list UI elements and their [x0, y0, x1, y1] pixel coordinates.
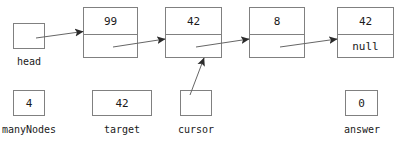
list-node-4-data-cell: 42	[338, 8, 393, 35]
list-node-4[interactable]: 42 null	[337, 7, 394, 58]
list-node-2-data-value: 42	[187, 16, 200, 27]
variable-label-target: target	[92, 125, 152, 135]
list-node-3-data-value: 8	[274, 16, 281, 27]
list-node-1-data-cell: 99	[84, 8, 137, 35]
variable-label-manynodes: manyNodes	[0, 125, 58, 135]
variable-box-manynodes[interactable]: 4	[13, 90, 45, 116]
variable-value-manynodes: 4	[26, 98, 33, 109]
list-node-1[interactable]: 99	[83, 7, 138, 58]
variable-box-cursor[interactable]	[180, 90, 212, 116]
variable-value-target: 42	[115, 98, 128, 109]
linked-list-diagram: 99 42 8 42 null head c	[0, 0, 411, 146]
list-node-1-link-cell	[84, 35, 137, 57]
variable-value-answer: 0	[358, 98, 365, 109]
variable-label-cursor: cursor	[167, 125, 225, 135]
list-node-1-data-value: 99	[104, 16, 117, 27]
variable-box-answer[interactable]: 0	[345, 90, 378, 116]
list-node-4-link-cell: null	[338, 35, 393, 57]
list-node-3-link-cell	[250, 35, 304, 57]
variable-label-head: head	[0, 57, 58, 67]
variable-box-target[interactable]: 42	[92, 90, 152, 116]
variable-label-answer: answer	[333, 125, 391, 135]
list-node-2[interactable]: 42	[165, 7, 222, 58]
list-node-2-data-cell: 42	[166, 8, 221, 35]
list-node-3[interactable]: 8	[249, 7, 305, 58]
list-node-4-link-value: null	[352, 41, 379, 52]
list-node-2-link-cell	[166, 35, 221, 57]
list-node-3-data-cell: 8	[250, 8, 304, 35]
variable-box-head[interactable]	[13, 23, 45, 49]
list-node-4-data-value: 42	[359, 16, 372, 27]
